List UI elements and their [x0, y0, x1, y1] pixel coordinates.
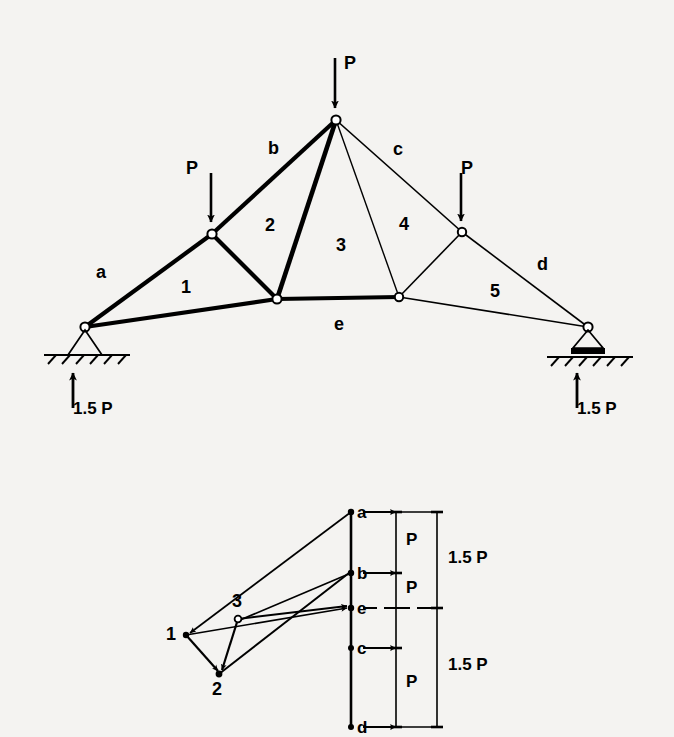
truss-label-c: c	[393, 139, 403, 160]
truss-panel-2: 2	[265, 215, 275, 236]
joint-bottom-left	[272, 294, 281, 303]
truss-members	[85, 120, 588, 327]
truss-load-label-right: P	[461, 158, 473, 179]
force-dim-1.5P-lower: 1.5 P	[448, 655, 488, 675]
force-point-c	[348, 645, 354, 651]
force-label-3: 3	[232, 591, 242, 612]
force-point-b	[348, 570, 354, 576]
force-dim-1.5P-upper: 1.5 P	[448, 548, 488, 568]
truss-member-1	[85, 299, 277, 327]
force-dim-P-bottom: P	[406, 672, 417, 692]
support-right-roller	[547, 330, 633, 366]
truss-member-4	[336, 120, 399, 297]
truss-member-e	[277, 297, 399, 299]
force-label-a: a	[357, 503, 366, 523]
joint-bottom-right	[395, 293, 403, 301]
force-label-d: d	[357, 718, 367, 737]
force-dimension-lines	[363, 512, 443, 727]
truss-panel-1: 1	[181, 277, 191, 298]
joint-apex	[331, 115, 340, 124]
truss-panel-4: 4	[399, 214, 409, 235]
force-point-a	[348, 509, 354, 515]
joint-right-top	[458, 228, 466, 236]
force-label-2: 2	[212, 679, 222, 700]
truss-reaction-arrows	[73, 373, 577, 408]
force-label-c: c	[357, 639, 366, 659]
truss-label-b: b	[268, 138, 279, 159]
force-polygon	[183, 509, 354, 730]
truss-panel-5: 5	[490, 281, 500, 302]
truss-load-label-apex: P	[344, 53, 356, 74]
truss-label-d: d	[537, 254, 548, 275]
truss-load-label-left: P	[186, 158, 198, 179]
support-left-pinned	[44, 330, 130, 364]
force-ray-12	[186, 635, 218, 671]
force-point-e	[348, 605, 354, 611]
truss-reaction-label-left: 1.5 P	[73, 399, 113, 419]
force-point-d	[348, 724, 354, 730]
force-ray-1e	[186, 608, 347, 635]
truss-label-a: a	[96, 262, 106, 283]
figure-root: a b c d e 1 2 3 4 5 P P P 1.5 P 1.5 P a …	[0, 0, 674, 737]
force-ray-2b	[219, 573, 349, 674]
truss-member-5	[399, 232, 462, 297]
truss-label-e: e	[334, 314, 344, 335]
truss-panel-3: 3	[336, 235, 346, 256]
force-point-2	[216, 671, 223, 678]
figure-canvas	[0, 0, 674, 737]
force-dim-P-top: P	[406, 530, 417, 550]
force-label-1: 1	[166, 624, 176, 645]
joint-left-top	[207, 229, 216, 238]
force-point-1	[183, 632, 189, 638]
force-point-3	[235, 616, 242, 623]
truss-reaction-label-right: 1.5 P	[577, 399, 617, 419]
force-dim-P-mid: P	[406, 578, 417, 598]
truss-member-d	[462, 232, 588, 327]
force-label-e: e	[357, 599, 366, 619]
force-label-b: b	[357, 564, 367, 584]
truss-member-2	[212, 234, 277, 299]
